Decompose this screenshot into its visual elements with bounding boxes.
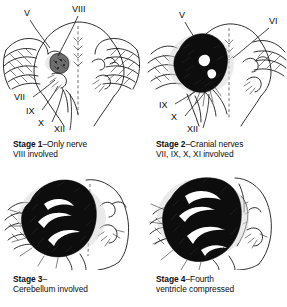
illustration-stage-1: V VIII VII IX X XII — [0, 0, 143, 132]
nerve-label-xii: XII — [54, 124, 65, 132]
panel-stage-2: V VI IX X XII Stage 2–Cranial nerves VII… — [143, 0, 287, 170]
nerve-label-x-2: X — [171, 112, 177, 122]
illustration-stage-2: V VI IX X XII — [143, 0, 287, 132]
caption-line1-1: –Only nerve — [42, 139, 87, 149]
nerve-label-v: V — [24, 8, 30, 18]
stage-label-3: Stage 3 — [13, 274, 42, 284]
panel-stage-1: V VIII VII IX X XII Stage 1–Only nerve V… — [0, 0, 143, 170]
nerve-label-ix: IX — [26, 106, 35, 116]
nerve-label-ix-2: IX — [159, 100, 168, 110]
caption-line1-4: –Fourth — [185, 274, 214, 284]
illustration-stage-3 — [0, 170, 143, 270]
caption-stage-4: Stage 4–Fourth ventricle compressed — [143, 274, 287, 294]
caption-line1-3: – — [42, 274, 47, 284]
panel-stage-3: Stage 3– Cerebellum involved — [0, 170, 143, 307]
nerve-label-xii-2: XII — [187, 124, 198, 132]
nerve-label-vi-2: VI — [269, 16, 278, 26]
caption-stage-1: Stage 1–Only nerve VIII involved — [0, 139, 143, 159]
nerve-label-viii: VIII — [72, 4, 86, 14]
caption-stage-2: Stage 2–Cranial nerves VII, IX, X, XI in… — [143, 139, 287, 159]
stage-label-1: Stage 1 — [13, 139, 42, 149]
caption-line2-4: ventricle compressed — [156, 284, 283, 294]
caption-line1-2: –Cranial nerves — [185, 139, 243, 149]
stages-figure: V VIII VII IX X XII Stage 1–Only nerve V… — [0, 0, 287, 307]
stage-label-4: Stage 4 — [156, 274, 185, 284]
tumor-stage-3 — [9, 180, 106, 268]
nerve-label-v-2: V — [179, 10, 185, 20]
illustration-stage-4 — [143, 170, 287, 270]
tumor-stage-1 — [45, 53, 71, 73]
caption-line2-1: VIII involved — [13, 149, 139, 159]
caption-line2-3: Cerebellum involved — [13, 284, 139, 294]
nerve-label-vii: VII — [14, 92, 25, 102]
panel-stage-4: Stage 4–Fourth ventricle compressed — [143, 170, 287, 307]
caption-stage-3: Stage 3– Cerebellum involved — [0, 274, 143, 294]
nerve-label-x: X — [38, 118, 44, 128]
tumor-stage-4 — [150, 178, 249, 270]
caption-line2-2: VII, IX, X, XI involved — [156, 149, 283, 159]
tumor-stage-2 — [168, 34, 234, 106]
stage-label-2: Stage 2 — [156, 139, 185, 149]
